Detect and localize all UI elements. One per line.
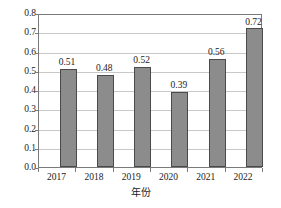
y-axis-tick-label: 0.5 xyxy=(0,67,36,77)
plot-area xyxy=(38,14,262,168)
x-axis-tick-mark xyxy=(75,168,76,172)
x-axis-tick-mark xyxy=(113,168,114,172)
bar-value-label-2017: 0.51 xyxy=(47,58,87,68)
x-axis-tick-mark xyxy=(150,168,151,172)
x-axis-tick-label-2022: 2022 xyxy=(221,173,265,183)
y-axis-tick-label: 0.1 xyxy=(0,144,36,154)
x-axis-tick-mark xyxy=(225,168,226,172)
bar-2020 xyxy=(171,92,188,167)
bar-chart: 0.8 0.7 0.6 0.5 0.4 0.3 0.2 0.1 0.0 0.51… xyxy=(0,0,281,208)
y-axis-tick-label: 0.7 xyxy=(0,29,36,39)
gridline xyxy=(39,33,261,34)
bar-2021 xyxy=(209,59,226,167)
y-axis-tick-label: 0.6 xyxy=(0,48,36,58)
y-axis-tick-label: 0.0 xyxy=(0,163,36,173)
bar-2017 xyxy=(60,69,77,167)
bar-value-label-2019: 0.52 xyxy=(122,56,162,66)
bar-2022 xyxy=(246,28,263,167)
y-axis-tick-label: 0.2 xyxy=(0,125,36,135)
x-axis-title: 年份 xyxy=(0,188,281,198)
bar-2019 xyxy=(134,67,151,167)
y-axis-tick-label: 0.4 xyxy=(0,86,36,96)
bar-value-label-2022: 0.72 xyxy=(234,18,274,28)
y-axis-tick-label: 0.8 xyxy=(0,9,36,19)
x-axis-tick-mark xyxy=(187,168,188,172)
x-axis-tick-mark xyxy=(262,168,263,172)
bar-value-label-2020: 0.39 xyxy=(159,81,199,91)
bar-value-label-2018: 0.48 xyxy=(84,64,124,74)
bar-value-label-2021: 0.56 xyxy=(196,48,236,58)
x-axis-tick-mark xyxy=(38,168,39,172)
y-axis-tick-label: 0.3 xyxy=(0,106,36,116)
bar-2018 xyxy=(97,75,114,167)
